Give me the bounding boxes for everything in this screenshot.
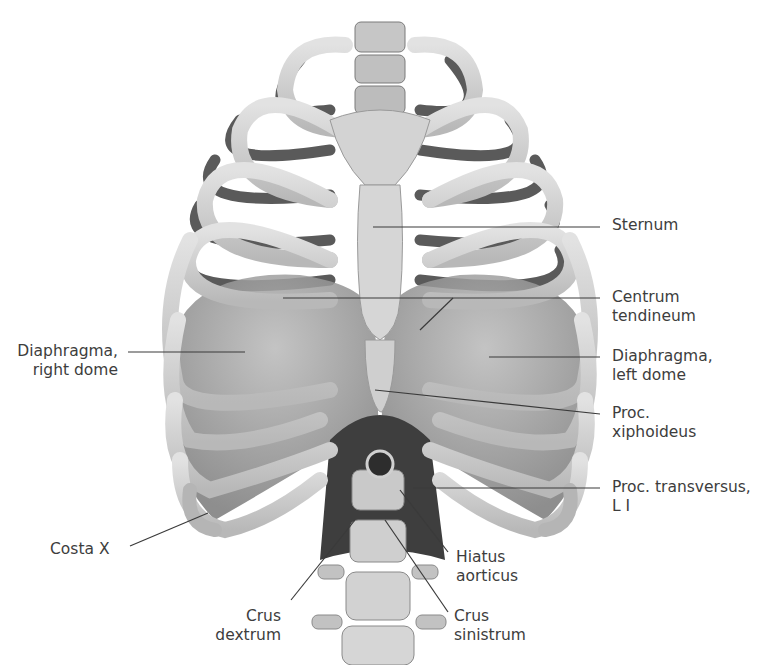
label-costa-x: Costa X	[50, 540, 110, 559]
anatomy-figure: Sternum Centrum tendineum Diaphragma, le…	[0, 0, 774, 665]
label-sternum: Sternum	[612, 216, 678, 235]
rib-cage-illustration	[0, 0, 774, 665]
label-crus-dextrum: Crus dextrum	[200, 607, 281, 645]
label-hiatus-aorticus: Hiatus aorticus	[456, 548, 518, 586]
label-centrum-tendineum: Centrum tendineum	[612, 288, 696, 326]
thoracic-vertebrae	[355, 22, 405, 114]
label-crus-sinistrum: Crus sinistrum	[454, 607, 526, 645]
label-proc-xiphoideus: Proc. xiphoideus	[612, 404, 696, 442]
label-diaphragma-right-dome: Diaphragma, right dome	[2, 342, 118, 380]
label-proc-transversus: Proc. transversus, L I	[612, 478, 751, 516]
label-diaphragma-left-dome: Diaphragma, left dome	[612, 347, 713, 385]
